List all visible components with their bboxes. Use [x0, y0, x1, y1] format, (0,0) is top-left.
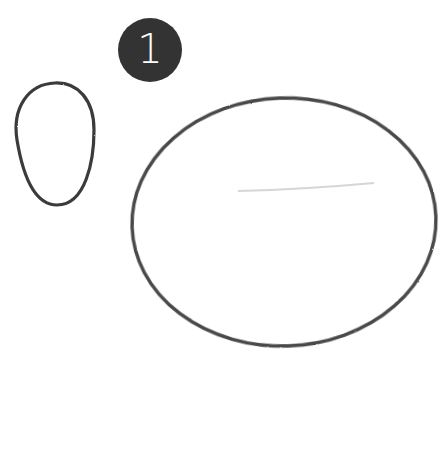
small-egg-shape — [16, 83, 94, 205]
step-number-badge: 1 — [118, 18, 182, 82]
large-oval-shape — [128, 93, 440, 351]
guide-line — [238, 183, 374, 191]
drawing-step-canvas: 1 — [0, 0, 446, 449]
step-number: 1 — [137, 29, 162, 69]
sketch-svg — [0, 0, 446, 449]
